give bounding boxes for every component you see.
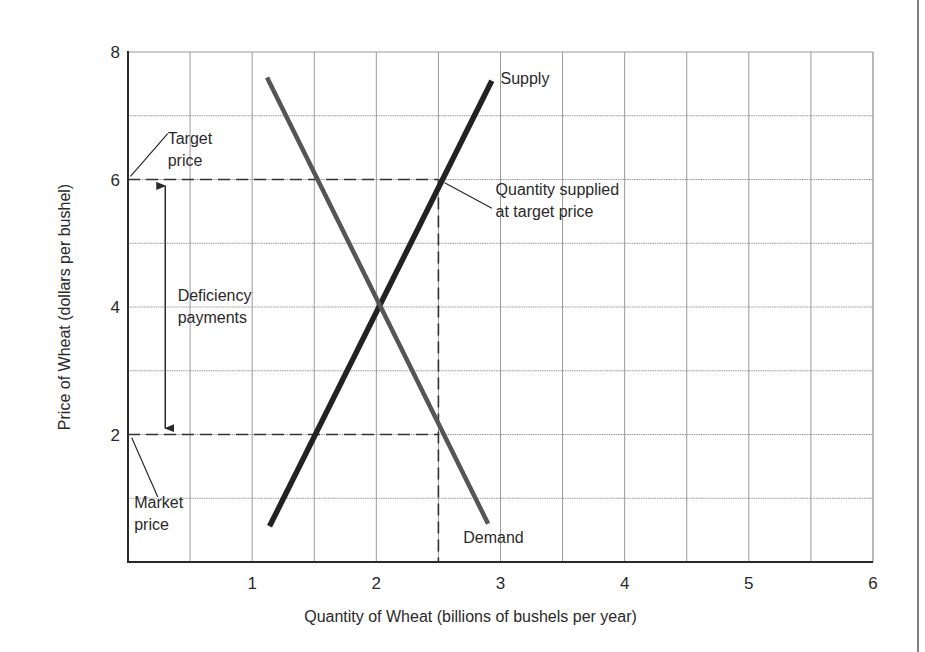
market-price-label-line: price [134, 516, 169, 533]
target-price-label-line: price [168, 152, 203, 169]
x-tick-label: 1 [247, 574, 256, 593]
annotations: TargetpriceMarketpriceDeficiencypayments… [130, 70, 619, 546]
quantity-supplied-label-line: at target price [496, 203, 594, 220]
supply-curve-label: Supply [501, 70, 550, 87]
deficiency-payments-label-line: payments [178, 309, 247, 326]
market-price-leader-line [132, 438, 158, 497]
target-price-leader-line [130, 134, 167, 177]
supply-curve-label-line: Supply [501, 70, 550, 87]
quantity-supplied-label-line: Quantity supplied [496, 181, 620, 198]
y-tick-label: 8 [111, 43, 120, 62]
deficiency-payments-label: Deficiencypayments [178, 287, 252, 326]
market-price-label: Marketprice [134, 494, 183, 533]
demand-curve [267, 78, 488, 524]
demand-curve-label: Demand [463, 529, 523, 546]
y-axis-title: Price of Wheat (dollars per bushel) [56, 184, 73, 430]
x-axis-title: Quantity of Wheat (billions of bushels p… [304, 608, 637, 625]
x-tick-label: 3 [496, 574, 505, 593]
deficiency-payments-label-line: Deficiency [178, 287, 252, 304]
x-tick-label: 2 [372, 574, 381, 593]
quantity-supplied-leader-line [445, 183, 492, 209]
x-tick-label: 5 [744, 574, 753, 593]
quantity-supplied-label: Quantity suppliedat target price [496, 181, 620, 220]
series [267, 78, 492, 527]
market-price-label-line: Market [134, 494, 183, 511]
grid [128, 52, 873, 562]
x-tick-label: 4 [620, 574, 629, 593]
chart: 1234562468 TargetpriceMarketpriceDeficie… [0, 0, 925, 652]
x-tick-label: 6 [868, 574, 877, 593]
target-price-label-line: Target [168, 130, 213, 147]
demand-curve-label-line: Demand [463, 529, 523, 546]
y-tick-label: 4 [111, 298, 120, 317]
y-tick-label: 2 [111, 426, 120, 445]
y-tick-label: 6 [111, 171, 120, 190]
